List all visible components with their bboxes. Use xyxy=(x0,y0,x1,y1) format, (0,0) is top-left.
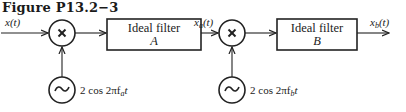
multiply-icon xyxy=(229,30,236,37)
oscillator-b: 2 cos 2πfbt xyxy=(219,47,298,103)
filter-a-label: Ideal filter xyxy=(128,21,181,35)
sine-wave-icon xyxy=(225,87,239,91)
oscillator-a: 2 cos 2πfat xyxy=(49,47,128,103)
multiplier-2 xyxy=(219,20,245,46)
multiplier-1 xyxy=(49,20,75,46)
output-label: xb(t) xyxy=(369,16,390,30)
filter-a-name: A xyxy=(149,34,158,48)
middle-signal-label: xa(t) xyxy=(193,16,214,30)
input-label: x(t) xyxy=(4,16,21,29)
sine-wave-icon xyxy=(55,87,69,91)
filter-a: Ideal filter A xyxy=(107,19,201,50)
filter-b: Ideal filter B xyxy=(277,19,357,50)
filter-b-label: Ideal filter xyxy=(291,21,344,35)
filter-b-name: B xyxy=(313,34,321,48)
oscillator-a-label: 2 cos 2πfat xyxy=(80,84,128,98)
input-signal: x(t) xyxy=(1,16,48,33)
multiply-icon xyxy=(59,30,66,37)
block-diagram: x(t) Ideal filter A xa(t) Ideal filter B xyxy=(0,0,406,112)
oscillator-b-label: 2 cos 2πfbt xyxy=(250,84,298,98)
